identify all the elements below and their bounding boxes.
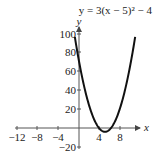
y-tick-label: 100 (60, 28, 77, 40)
y-tick-label: 80 (65, 46, 77, 58)
y-tick-label: 20 (65, 103, 77, 115)
parabola-curve (75, 37, 135, 132)
parabola-chart: −12 −8 −4 4 8 100 80 60 40 20 −20 x y y … (0, 0, 153, 152)
y-tick-label: 60 (65, 65, 77, 77)
y-tick-label: −20 (59, 141, 77, 152)
x-axis-label: x (143, 121, 149, 133)
x-tick-label: −12 (8, 131, 25, 143)
x-tick-label: 8 (117, 131, 123, 143)
chart-title: y = 3(x − 5)² − 4 (79, 4, 153, 17)
x-tick-label: −8 (31, 131, 43, 143)
y-tick-label: 40 (65, 84, 77, 96)
y-axis-label: y (76, 15, 82, 27)
x-tick-label: 4 (96, 131, 102, 143)
